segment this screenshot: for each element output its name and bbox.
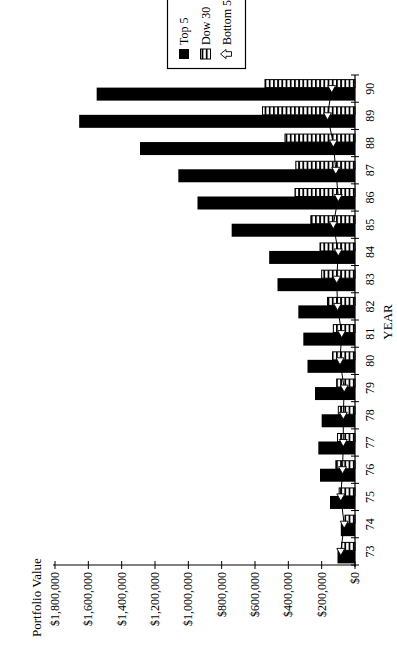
y-tick-label: $200,000 bbox=[315, 572, 329, 617]
bar-dow30-86 bbox=[295, 189, 355, 197]
bar-top5-81 bbox=[303, 333, 355, 346]
x-tick-label: 73 bbox=[363, 545, 377, 557]
x-tick-label: 79 bbox=[363, 382, 377, 394]
x-axis-title: YEAR bbox=[380, 304, 395, 340]
legend: Top 5Dow 30Bottom 5 bbox=[168, 0, 246, 69]
x-tick-label: 75 bbox=[363, 491, 377, 503]
bar-dow30-88 bbox=[285, 134, 355, 142]
bar-top5-80 bbox=[308, 360, 356, 373]
y-tick-label: $1,400,000 bbox=[115, 572, 129, 626]
bar-top5-87 bbox=[178, 169, 355, 182]
x-tick-label: 77 bbox=[363, 437, 377, 449]
bar-top5-83 bbox=[278, 278, 356, 291]
bar-top5-90 bbox=[97, 88, 355, 101]
x-tick-label: 86 bbox=[363, 192, 377, 204]
scanned-page: $0$200,000$400,000$600,000$800,000$1,000… bbox=[0, 0, 397, 645]
x-tick-label: 74 bbox=[363, 518, 377, 530]
legend-swatch-dow30 bbox=[201, 49, 211, 59]
y-tick-label: $600,000 bbox=[248, 572, 262, 617]
bar-dow30-90 bbox=[265, 80, 355, 88]
x-tick-label: 76 bbox=[363, 464, 377, 476]
bar-top5-76 bbox=[320, 469, 355, 482]
x-tick-label: 81 bbox=[363, 328, 377, 340]
legend-swatch-top5 bbox=[179, 49, 189, 59]
x-tick-label: 88 bbox=[363, 137, 377, 149]
plot-area bbox=[79, 80, 355, 564]
bar-top5-84 bbox=[269, 251, 355, 264]
y-tick-label: $1,600,000 bbox=[81, 572, 95, 626]
legend-label-top-5: Top 5 bbox=[177, 18, 191, 46]
y-axis-title: Portfolio Value bbox=[29, 558, 44, 637]
bar-top5-78 bbox=[322, 414, 355, 427]
x-tick-label: 80 bbox=[363, 355, 377, 367]
x-tick-label: 89 bbox=[363, 110, 377, 122]
y-tick-label: $400,000 bbox=[281, 572, 295, 617]
bar-dow30-89 bbox=[263, 107, 356, 115]
y-tick-label: $0 bbox=[348, 572, 362, 584]
bar-top5-79 bbox=[315, 387, 355, 400]
rotated-chart-container: $0$200,000$400,000$600,000$800,000$1,000… bbox=[0, 0, 397, 645]
bar-top5-85 bbox=[232, 224, 355, 237]
line-bottom5 bbox=[328, 89, 345, 552]
portfolio-bar-chart: $0$200,000$400,000$600,000$800,000$1,000… bbox=[0, 0, 397, 645]
bar-top5-77 bbox=[318, 442, 355, 455]
y-tick-label: $1,000,000 bbox=[181, 572, 195, 626]
x-tick-label: 82 bbox=[363, 300, 377, 312]
legend-label-dow-30: Dow 30 bbox=[199, 7, 213, 45]
bar-top5-88 bbox=[140, 142, 355, 155]
bar-top5-82 bbox=[298, 305, 355, 318]
y-tick-label: $1,800,000 bbox=[48, 572, 62, 626]
x-tick-label: 90 bbox=[363, 83, 377, 95]
y-tick-label: $800,000 bbox=[215, 572, 229, 617]
bar-top5-89 bbox=[79, 115, 355, 128]
x-tick-label: 85 bbox=[363, 219, 377, 231]
x-tick-label: 83 bbox=[363, 273, 377, 285]
bar-top5-86 bbox=[198, 197, 356, 210]
x-tick-label: 78 bbox=[363, 409, 377, 421]
bar-dow30-87 bbox=[296, 161, 355, 169]
axes: $0$200,000$400,000$600,000$800,000$1,000… bbox=[48, 75, 377, 626]
legend-label-bottom-5: Bottom 5 bbox=[220, 0, 234, 45]
x-tick-label: 87 bbox=[363, 164, 377, 176]
y-tick-label: $1,200,000 bbox=[148, 572, 162, 626]
x-tick-label: 84 bbox=[363, 246, 377, 258]
